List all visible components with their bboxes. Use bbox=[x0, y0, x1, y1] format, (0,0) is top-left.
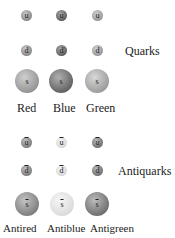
column-label-green: Green bbox=[86, 101, 115, 116]
antiquark-s-antired: s bbox=[15, 192, 39, 216]
antiquark-d-antired: d bbox=[21, 165, 32, 176]
group-label-antiquarks: Antiquarks bbox=[118, 164, 171, 179]
antiquark-u-antiblue: u bbox=[56, 137, 67, 148]
quark-d-green: d bbox=[92, 45, 103, 56]
column-label-antiblue: Antiblue bbox=[47, 222, 86, 234]
quark-u-green: u bbox=[92, 10, 103, 21]
quark-s-red: s bbox=[15, 69, 39, 93]
quark-u-blue: u bbox=[56, 10, 67, 21]
quark-s-green: s bbox=[85, 69, 109, 93]
quark-d-blue: d bbox=[56, 45, 67, 56]
antiquark-s-antigreen: s bbox=[85, 192, 109, 216]
column-label-red: Red bbox=[17, 101, 36, 116]
antiquark-s-antiblue: s bbox=[50, 192, 74, 216]
column-label-antigreen: Antigreen bbox=[90, 222, 134, 234]
quark-s-blue: s bbox=[49, 69, 73, 93]
antiquark-d-antigreen: d bbox=[92, 165, 103, 176]
quark-u-red: u bbox=[21, 10, 32, 21]
group-label-quarks: Quarks bbox=[125, 44, 160, 59]
quark-d-red: d bbox=[21, 45, 32, 56]
column-label-blue: Blue bbox=[53, 101, 76, 116]
antiquark-u-antired: u bbox=[21, 137, 32, 148]
antiquark-d-antiblue: d bbox=[56, 165, 67, 176]
antiquark-u-antigreen: u bbox=[92, 137, 103, 148]
column-label-antired: Antired bbox=[3, 222, 37, 234]
